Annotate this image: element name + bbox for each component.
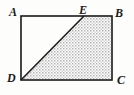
vertex-label-b: B xyxy=(115,7,123,19)
figure-canvas xyxy=(0,0,134,95)
vertex-label-a: A xyxy=(9,6,17,18)
vertex-label-d: D xyxy=(7,72,16,84)
vertex-label-c: C xyxy=(117,74,125,86)
vertex-label-e: E xyxy=(79,4,87,16)
shaded-quadrilateral-fill xyxy=(22,17,111,79)
geometry-figure: A E B D C xyxy=(0,0,134,95)
